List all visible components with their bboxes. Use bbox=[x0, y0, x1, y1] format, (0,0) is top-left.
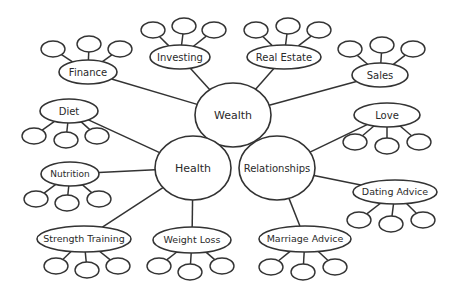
topic-node-investing: Investing bbox=[150, 45, 210, 69]
finance-leaf-node-3 bbox=[108, 41, 132, 57]
connector-wealth-investing bbox=[190, 68, 210, 89]
topic-label-real-estate: Real Estate bbox=[256, 52, 312, 63]
investing-leaf-node-3 bbox=[202, 22, 226, 38]
weight-loss-leaf-node-1 bbox=[147, 258, 171, 274]
diet-leaf-node-2 bbox=[54, 132, 78, 148]
topic-node-real-estate: Real Estate bbox=[247, 45, 321, 69]
dating-advice-leaf-node-1 bbox=[347, 212, 371, 228]
diet-leaf-node-1 bbox=[22, 128, 46, 144]
connector-health-strength-training bbox=[102, 188, 163, 227]
connector-investing-leaf-1 bbox=[160, 37, 169, 46]
topic-label-nutrition: Nutrition bbox=[50, 169, 89, 179]
connector-wealth-sales bbox=[269, 81, 356, 105]
connector-real-estate-leaf-2 bbox=[286, 34, 287, 45]
investing-leaf-node-2 bbox=[172, 18, 196, 34]
connector-investing-leaf-3 bbox=[193, 36, 206, 46]
real-estate-leaf-node-2 bbox=[276, 18, 300, 34]
connector-relationships-dating-advice bbox=[314, 176, 361, 186]
marriage-advice-leaf-node-2 bbox=[291, 264, 315, 280]
topic-label-love: Love bbox=[375, 110, 399, 121]
marriage-advice-leaf-node-1 bbox=[259, 259, 283, 275]
strength-training-leaf-node-3 bbox=[106, 258, 130, 274]
weight-loss-leaf-node-3 bbox=[210, 258, 234, 274]
nutrition-leaf-node-3 bbox=[87, 191, 111, 207]
topic-node-love: Love bbox=[354, 103, 420, 127]
topic-label-finance: Finance bbox=[69, 67, 107, 78]
strength-training-leaf-node-2 bbox=[75, 262, 99, 278]
connector-love-leaf-3 bbox=[400, 126, 411, 136]
hub-label-health: Health bbox=[175, 162, 211, 175]
connector-weight-loss-leaf-2 bbox=[190, 253, 191, 264]
connector-sales-leaf-2 bbox=[381, 53, 382, 63]
strength-training-leaf-node-1 bbox=[44, 258, 68, 274]
topic-node-diet: Diet bbox=[40, 99, 98, 123]
connector-real-estate-leaf-1 bbox=[263, 37, 272, 46]
topic-node-dating-advice: Dating Advice bbox=[353, 180, 437, 204]
topic-node-finance: Finance bbox=[59, 60, 117, 84]
topic-node-nutrition: Nutrition bbox=[41, 162, 99, 186]
connector-marriage-advice-leaf-3 bbox=[318, 251, 328, 260]
connector-sales-leaf-3 bbox=[393, 55, 405, 64]
dating-advice-leaf-node-2 bbox=[379, 216, 403, 232]
real-estate-leaf-node-1 bbox=[244, 22, 268, 38]
topic-label-sales: Sales bbox=[367, 70, 394, 81]
love-leaf-node-3 bbox=[407, 134, 431, 150]
sales-leaf-node-3 bbox=[401, 41, 425, 57]
connector-finance-leaf-3 bbox=[102, 55, 111, 62]
hub-nodes: WealthHealthRelationships bbox=[155, 83, 315, 200]
love-leaf-node-1 bbox=[343, 134, 367, 150]
finance-leaf-node-2 bbox=[77, 36, 101, 52]
connector-weight-loss-leaf-1 bbox=[167, 252, 177, 260]
connector-wealth-finance bbox=[112, 79, 198, 104]
topic-label-diet: Diet bbox=[59, 106, 80, 117]
topic-label-weight-loss: Weight Loss bbox=[164, 234, 221, 245]
connector-nutrition-leaf-2 bbox=[68, 186, 69, 195]
investing-leaf-node-1 bbox=[141, 22, 165, 38]
connector-strength-training-leaf-2 bbox=[85, 252, 86, 262]
weight-loss-leaf-node-2 bbox=[178, 264, 202, 280]
connector-diet-leaf-3 bbox=[81, 122, 90, 130]
diet-leaf-node-3 bbox=[85, 128, 109, 144]
connector-marriage-advice-leaf-1 bbox=[279, 251, 291, 260]
connector-nutrition-leaf-1 bbox=[44, 184, 56, 193]
nutrition-leaf-node-2 bbox=[55, 195, 79, 211]
mind-map-diagram: FinanceInvestingReal EstateSalesDietNutr… bbox=[0, 0, 463, 299]
connector-love-leaf-1 bbox=[362, 126, 373, 136]
connector-health-nutrition bbox=[99, 170, 155, 173]
connector-diet-leaf-1 bbox=[42, 121, 54, 130]
connector-real-estate-leaf-3 bbox=[298, 36, 311, 46]
connector-weight-loss-leaf-3 bbox=[206, 252, 215, 260]
topic-label-strength-training: Strength Training bbox=[43, 233, 125, 244]
connector-sales-leaf-1 bbox=[357, 55, 367, 64]
hub-node-health: Health bbox=[155, 136, 231, 200]
marriage-advice-leaf-node-3 bbox=[323, 259, 347, 275]
nutrition-leaf-node-1 bbox=[24, 191, 48, 207]
love-leaf-node-2 bbox=[375, 138, 399, 154]
connector-nutrition-leaf-3 bbox=[83, 185, 92, 193]
connector-wealth-real-estate bbox=[256, 69, 274, 90]
connector-strength-training-leaf-3 bbox=[99, 251, 110, 260]
hub-label-relationships: Relationships bbox=[244, 163, 311, 174]
connector-strength-training-leaf-1 bbox=[63, 251, 71, 259]
connector-marriage-advice-leaf-2 bbox=[303, 252, 304, 264]
real-estate-leaf-node-3 bbox=[307, 22, 331, 38]
connector-finance-leaf-1 bbox=[62, 55, 73, 62]
sales-leaf-node-1 bbox=[338, 41, 362, 57]
mind-map-canvas: FinanceInvestingReal EstateSalesDietNutr… bbox=[0, 0, 463, 299]
topic-node-marriage-advice: Marriage Advice bbox=[259, 226, 351, 252]
sales-leaf-node-2 bbox=[370, 37, 394, 53]
connector-investing-leaf-2 bbox=[182, 34, 183, 45]
topic-label-investing: Investing bbox=[157, 52, 203, 63]
topic-label-marriage-advice: Marriage Advice bbox=[267, 233, 344, 244]
connector-diet-leaf-2 bbox=[67, 123, 68, 132]
topic-node-strength-training: Strength Training bbox=[37, 226, 131, 252]
connector-dating-advice-leaf-2 bbox=[392, 204, 394, 216]
connector-dating-advice-leaf-1 bbox=[367, 203, 381, 214]
finance-leaf-node-1 bbox=[41, 41, 65, 57]
dating-advice-leaf-node-3 bbox=[411, 212, 435, 228]
hub-label-wealth: Wealth bbox=[214, 109, 252, 122]
connector-dating-advice-leaf-3 bbox=[407, 204, 417, 214]
connector-relationships-marriage-advice bbox=[289, 198, 300, 226]
topic-node-sales: Sales bbox=[352, 63, 408, 87]
topic-label-dating-advice: Dating Advice bbox=[362, 186, 428, 197]
